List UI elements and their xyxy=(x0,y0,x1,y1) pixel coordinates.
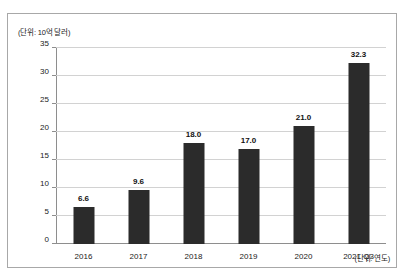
bar xyxy=(238,149,259,244)
bar xyxy=(183,143,204,244)
bar xyxy=(128,190,149,244)
y-tick-label: 0 xyxy=(45,235,49,244)
bar-value-label: 17.0 xyxy=(241,136,257,145)
plot-area: 05101520253035 6.620169.6201718.0201817.… xyxy=(56,48,386,244)
y-tick-label: 10 xyxy=(40,179,49,188)
bar-group: 21.02020 xyxy=(276,48,331,244)
bar-group: 18.02018 xyxy=(166,48,221,244)
x-tick-label: 2018 xyxy=(185,252,203,261)
y-tick-label: 20 xyxy=(40,123,49,132)
x-tick-label: 2020 xyxy=(295,252,313,261)
x-tick-label: 2017 xyxy=(130,252,148,261)
bar-value-label: 21.0 xyxy=(296,113,312,122)
bar-group: 32.32021 Q3 xyxy=(331,48,386,244)
y-tick-label: 25 xyxy=(40,95,49,104)
bar xyxy=(293,126,314,244)
bar-group: 17.02019 xyxy=(221,48,276,244)
x-tick-label: 2019 xyxy=(240,252,258,261)
bar-group: 6.62016 xyxy=(56,48,111,244)
bar-value-label: 32.3 xyxy=(351,50,367,59)
bar-group: 9.62017 xyxy=(111,48,166,244)
y-tick-label: 5 xyxy=(45,207,49,216)
y-tick-label: 35 xyxy=(40,39,49,48)
bar-value-label: 9.6 xyxy=(133,177,144,186)
y-tick-label: 30 xyxy=(40,67,49,76)
x-tick-label: 2016 xyxy=(75,252,93,261)
chart-figure: (단위: 10억 달러) 05101520253035 6.620169.620… xyxy=(7,13,397,268)
y-tick-label: 15 xyxy=(40,151,49,160)
y-axis-unit-label: (단위: 10억 달러) xyxy=(18,26,70,37)
bar-value-label: 6.6 xyxy=(78,194,89,203)
x-axis-unit-label: (단위: 연도) xyxy=(354,252,390,263)
bar-value-label: 18.0 xyxy=(186,130,202,139)
bar xyxy=(73,207,94,244)
bar xyxy=(348,63,369,244)
